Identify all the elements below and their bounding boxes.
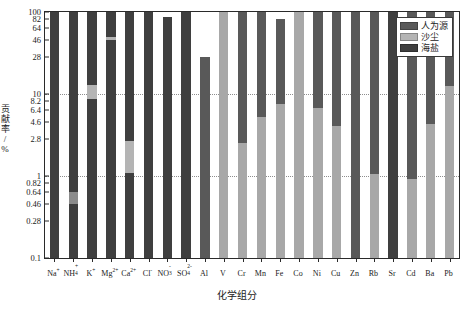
x-axis-tick-labels: Na+NH+4K+Mg2+Ca2+Cl-NO-3SO2-4AlVCrMnFeCo… (44, 262, 460, 278)
bar-segment (294, 12, 303, 258)
x-axis-tick-label: Mg2+ (101, 269, 118, 278)
legend-swatch (400, 44, 418, 52)
bar-segment (351, 12, 360, 258)
x-axis-tick-label: NO-3 (158, 267, 176, 278)
bar-segment (276, 104, 285, 258)
bar[interactable] (163, 12, 172, 258)
bar[interactable] (200, 12, 209, 258)
x-axis-tick-label: Co (293, 269, 302, 278)
x-axis-title: 化学组分 (0, 287, 474, 302)
bar-segment (445, 86, 454, 258)
bar[interactable] (181, 12, 190, 258)
bar-segment (276, 19, 285, 104)
bar-segment (257, 117, 266, 258)
y-axis-tick-label: 46 (33, 35, 46, 44)
x-axis-tick-label: NH+4 (63, 267, 81, 278)
bar-segment (332, 12, 341, 126)
bar-segment (370, 12, 379, 174)
x-axis-tick-label: Fe (275, 269, 283, 278)
bar[interactable] (276, 12, 285, 258)
y-axis-tick-label: 0.46 (26, 199, 45, 208)
bar-segment (332, 126, 341, 258)
bar[interactable] (144, 12, 153, 258)
plot-area: 10082644628108.26.44.62.810.820.640.460.… (44, 11, 460, 259)
bar[interactable] (313, 12, 322, 258)
y-axis-title: 贡献率/% (0, 104, 12, 154)
bar-segment (144, 12, 153, 258)
bar-segment (69, 204, 78, 258)
x-axis-tick-label: SO2-4 (177, 267, 193, 278)
bar-segment (87, 85, 96, 100)
charge-stack: 2-4 (187, 267, 193, 276)
bar-segment (87, 12, 96, 85)
bar-segment (238, 143, 247, 258)
bar-segment (407, 179, 416, 258)
bar-segment (163, 17, 172, 258)
bar[interactable] (257, 12, 266, 258)
bar[interactable] (238, 12, 247, 258)
x-axis-tick-label: Pb (444, 269, 452, 278)
legend-swatch (400, 33, 418, 41)
y-axis-tick-label: 0.1 (30, 254, 45, 263)
y-axis-title-char: 率 (0, 124, 12, 134)
legend-swatch (400, 22, 418, 30)
bar-segment (87, 99, 96, 258)
bar[interactable] (332, 12, 341, 258)
chart-figure: 贡献率/% 10082644628108.26.44.62.810.820.64… (0, 0, 474, 318)
x-axis-tick-label: Ni (313, 269, 321, 278)
legend-item[interactable]: 海盐 (400, 43, 448, 53)
bar-segment (313, 12, 322, 108)
bar[interactable] (69, 12, 78, 258)
bar-segment (125, 12, 134, 141)
x-axis-tick-label: Cl- (143, 269, 152, 278)
y-axis-tick-label: 28 (33, 53, 46, 62)
y-axis-tick-label: 2.8 (30, 135, 45, 144)
legend-item[interactable]: 人为源 (400, 21, 448, 31)
x-axis-tick-label: Ca2+ (121, 269, 136, 278)
x-axis-tick-label: Cr (238, 269, 246, 278)
legend-label: 海盐 (421, 44, 439, 53)
x-axis-tick-label: Na+ (47, 269, 59, 278)
legend: 人为源沙尘海盐 (396, 17, 453, 57)
bar-segment (370, 174, 379, 258)
bar[interactable] (87, 12, 96, 258)
legend-item[interactable]: 沙尘 (400, 32, 448, 42)
bar-segment (313, 108, 322, 258)
x-axis-tick-label: Sr (389, 269, 396, 278)
y-axis-tick-label: 6.4 (30, 106, 45, 115)
legend-label: 沙尘 (421, 33, 439, 42)
y-axis-title-char: / (0, 134, 12, 144)
bar[interactable] (370, 12, 379, 258)
bar-segment (106, 37, 115, 40)
bar-segment (181, 12, 190, 258)
bar-segment (106, 12, 115, 37)
charge-stack: -3 (169, 267, 175, 276)
x-axis-tick-label: Al (200, 269, 208, 278)
y-axis-tick-label: 0.28 (26, 217, 45, 226)
x-axis-tick-label: Cu (331, 269, 340, 278)
x-axis-tick-label: K+ (87, 269, 96, 278)
bar[interactable] (50, 12, 59, 258)
bar[interactable] (219, 12, 228, 258)
bar[interactable] (125, 12, 134, 258)
bar-segment (69, 12, 78, 192)
bar[interactable] (106, 12, 115, 258)
bar-segment (200, 57, 209, 258)
bar-segment (125, 141, 134, 173)
bar-segment (219, 12, 228, 258)
bar-segment (125, 173, 134, 258)
charge-stack: +4 (75, 267, 81, 276)
x-axis-tick-label: Cd (406, 269, 415, 278)
bar[interactable] (351, 12, 360, 258)
x-axis-tick-label: Zn (350, 269, 359, 278)
y-axis-title-char: % (0, 144, 12, 154)
bar-segment (50, 12, 59, 258)
y-axis-title-char: 献 (0, 114, 12, 124)
bar-segment (257, 12, 266, 117)
y-axis-tick-label: 4.6 (30, 117, 45, 126)
x-axis-tick-label: Mn (255, 269, 266, 278)
bar-segment (238, 12, 247, 143)
y-axis-tick-label: 64 (33, 24, 46, 33)
bar[interactable] (294, 12, 303, 258)
y-axis-title-char: 贡 (0, 104, 12, 114)
